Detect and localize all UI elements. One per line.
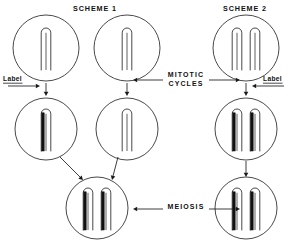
arrow-shaft [60,157,80,177]
scheme-header-scheme-1: SCHEME 1 [73,4,117,13]
stage-label-mitotic-cycles: MITOTIC [168,71,204,78]
labeled-chromatid-left [251,192,254,230]
scheme-header-scheme-2: SCHEME 2 [223,4,267,13]
labeled-chromatid-left [84,192,87,230]
arrow-arrow-s1b-diagonal [111,157,118,180]
cell-scheme1-unlabeled-gamete-parent [96,98,158,160]
arrow-arrow-s1a-down [44,83,49,96]
cell-scheme2-parent [213,15,279,81]
arrow-head [244,92,249,96]
arrow-shaft [113,157,118,176]
diagram-canvas: SCHEME 1SCHEME 2MITOTICCYCLESMEIOSISLabe… [0,0,293,241]
chromosome [232,28,242,70]
chromosome [250,28,260,70]
cell-membrane [213,15,279,81]
arrow-arrow-s2-down [244,83,249,96]
labeled-chromatid-left [251,113,254,151]
cell-scheme1-parent-a [13,15,79,81]
chromosome [83,188,93,230]
arrow-head [111,175,115,180]
chromosome [41,28,51,70]
arrow-head [133,207,137,212]
chromosome [101,188,111,230]
side-label-label-right: Label [263,75,282,82]
arrow-arrow-label-left [8,84,40,89]
chromosome [122,28,132,70]
labeled-chromatid-left [42,113,45,151]
stage-label-meiosis: MEIOSIS [168,203,205,210]
cell-scheme1-zygote [66,177,128,239]
arrow-arrow-s2-mid-down [244,161,249,177]
cell-scheme1-parent-b [94,15,160,81]
stage-label-mitotic-cycles-line2: CYCLES [169,80,204,87]
arrow-head [36,84,40,89]
arrow-head [252,84,256,89]
cell-scheme2-labeled-diploid [215,98,277,160]
chromosome [250,109,260,151]
arrow-arrow-s1a-diagonal [60,157,83,180]
arrow-arrow-s1b-down [125,83,130,96]
chromosome-labeling-diagram: SCHEME 1SCHEME 2MITOTICCYCLESMEIOSISLabe… [0,0,293,241]
arrow-arrow-meiosis-left [133,207,163,212]
labeled-chromatid-left [233,192,236,230]
arrow-head [44,92,49,96]
side-label-label-left: Label [3,75,22,82]
arrow-head [125,92,130,96]
cell-scheme1-labeled-gamete-parent [15,98,77,160]
cell-scheme2-zygote [215,177,277,239]
chromosome [41,109,51,151]
labeled-chromatid-left [102,192,105,230]
cell-membrane [215,98,277,160]
chromosome [250,188,260,230]
cell-membrane [215,177,277,239]
arrow-head [244,173,249,177]
chromosome [122,109,132,151]
chromosome [232,109,242,151]
cell-membrane [66,177,128,239]
labeled-chromatid-left [233,113,236,151]
arrow-arrow-label-right [252,84,284,89]
